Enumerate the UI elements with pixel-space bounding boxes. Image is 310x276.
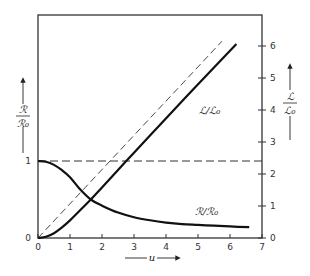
x-label-text: u	[149, 252, 155, 263]
x-axis-ticks: 01234567	[35, 234, 265, 252]
left-label-numerator: ℛ	[19, 104, 28, 115]
left-axis-label: ℛ ℛ₀	[16, 80, 30, 153]
right-tick-label: 1	[270, 201, 276, 211]
x-tick-label: 1	[67, 242, 73, 252]
left-tick-0: 0	[25, 233, 31, 243]
right-axis-label: ℒ ℒ₀	[283, 66, 297, 140]
x-tick-label: 3	[131, 242, 137, 252]
chart-svg: 01234567 0123456 0 1 ℒ/ℒ₀ ℛ/ℛ₀ ℛ ℛ₀ ℒ ℒ₀…	[0, 0, 310, 276]
right-tick-label: 5	[270, 73, 276, 83]
left-tick-1: 1	[25, 156, 31, 166]
right-tick-label: 4	[270, 105, 276, 115]
right-axis-ticks: 0123456	[258, 41, 276, 243]
right-tick-label: 6	[270, 41, 276, 51]
left-axis-ticks: 0 1	[25, 156, 31, 243]
curve-label-L: ℒ/ℒ₀	[199, 105, 220, 116]
x-tick-label: 6	[227, 242, 233, 252]
x-tick-label: 5	[195, 242, 201, 252]
x-tick-label: 4	[163, 242, 169, 252]
x-tick-label: 0	[35, 242, 41, 252]
right-label-numerator: ℒ	[287, 91, 295, 102]
right-tick-label: 2	[270, 169, 276, 179]
right-tick-label: 3	[270, 137, 276, 147]
plot-frame	[38, 15, 262, 238]
x-axis-label: u	[125, 252, 178, 263]
left-label-denominator: ℛ₀	[17, 118, 29, 129]
curve-label-R: ℛ/ℛ₀	[195, 206, 218, 217]
right-tick-label: 0	[270, 233, 276, 243]
x-tick-label: 2	[99, 242, 105, 252]
x-tick-label: 7	[259, 242, 265, 252]
right-label-denominator: ℒ₀	[284, 105, 295, 116]
curve-R-over-R0	[38, 161, 249, 227]
